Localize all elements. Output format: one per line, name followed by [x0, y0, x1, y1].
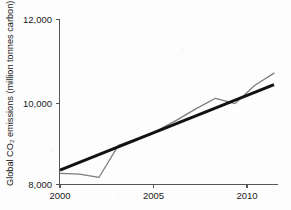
y-axis-title: Global CO₂ emissions (million tonnes car…	[5, 1, 15, 186]
y-tick-label-12000: 12,000	[23, 14, 52, 25]
y-tick-label-10000: 10,000	[23, 98, 52, 109]
x-tick-label-2005: 2005	[143, 190, 164, 201]
x-tick-label-2000: 2000	[49, 190, 70, 201]
plot-area-background	[60, 18, 274, 185]
x-tick-label-2010: 2010	[236, 190, 257, 201]
co2-emissions-chart: 12,000 10,000 8,000 2000 2005 2010 Globa…	[0, 0, 291, 210]
y-tick-label-8000: 8,000	[28, 179, 52, 190]
chart-canvas: 12,000 10,000 8,000 2000 2005 2010 Globa…	[0, 0, 291, 210]
